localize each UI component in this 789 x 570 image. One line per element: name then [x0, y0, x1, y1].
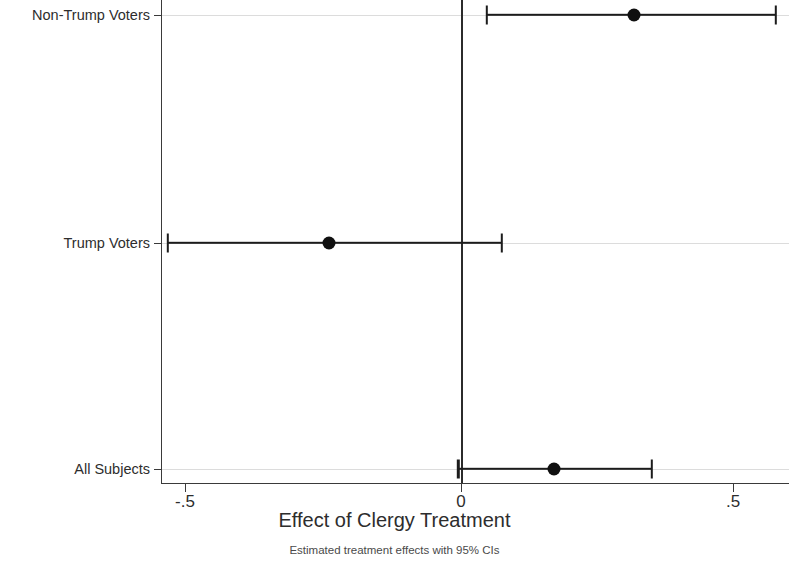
x-axis-spine: [161, 483, 789, 484]
x-axis-title: Effect of Clergy Treatment: [0, 510, 789, 530]
ci-cap-low-all-subjects: [457, 460, 459, 479]
point-marker-all-subjects: [548, 463, 561, 476]
ci-cap-high-non-trump-voters: [775, 6, 777, 25]
y-tick-non-trump-voters: [154, 15, 161, 16]
x-tick-label-pos-half: .5: [726, 493, 740, 510]
point-marker-trump-voters: [323, 237, 336, 250]
x-tick-label-neg-half: -.5: [175, 493, 195, 510]
ci-cap-high-all-subjects: [651, 460, 653, 479]
y-tick-trump-voters: [154, 243, 161, 244]
y-axis-spine: [161, 0, 162, 484]
y-tick-all-subjects: [154, 469, 161, 470]
chart-note: Estimated treatment effects with 95% CIs: [0, 545, 789, 557]
x-tick-pos-half: [733, 484, 734, 492]
ci-cap-high-trump-voters: [501, 234, 503, 253]
point-marker-non-trump-voters: [627, 9, 640, 22]
coefficient-plot: Non-Trump Voters Trump Voters All Subjec…: [0, 0, 789, 570]
x-tick-zero: [461, 484, 462, 492]
y-axis-label-non-trump-voters: Non-Trump Voters: [0, 8, 150, 23]
ci-cap-low-trump-voters: [167, 234, 169, 253]
y-axis-label-trump-voters: Trump Voters: [0, 236, 150, 251]
ci-cap-low-non-trump-voters: [486, 6, 488, 25]
x-tick-neg-half: [185, 484, 186, 492]
y-axis-label-all-subjects: All Subjects: [0, 462, 150, 477]
x-tick-label-zero: 0: [456, 493, 465, 510]
